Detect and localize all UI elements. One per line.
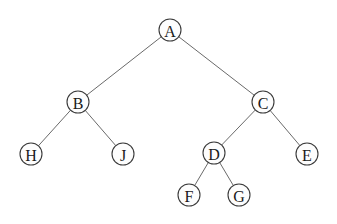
nodes-layer: ABCHJDEFG (20, 19, 318, 206)
node-label: J (120, 147, 126, 164)
node-label: C (258, 95, 269, 112)
edge-a-c (179, 37, 255, 96)
edge-b-h (38, 110, 70, 146)
node-label: E (302, 147, 312, 164)
tree-diagram: ABCHJDEFG (0, 0, 337, 224)
edge-c-e (270, 110, 300, 145)
tree-node-e: E (296, 143, 318, 165)
edge-d-f (195, 162, 209, 185)
node-label: D (208, 146, 220, 163)
edge-d-g (220, 162, 234, 185)
edge-b-j (85, 110, 116, 145)
tree-node-d: D (203, 142, 225, 164)
edge-a-b (87, 37, 162, 95)
tree-node-b: B (67, 91, 89, 113)
tree-node-f: F (178, 184, 200, 206)
node-label: B (73, 95, 84, 112)
tree-node-c: C (252, 91, 274, 113)
node-label: F (185, 188, 194, 205)
edge-c-d (222, 110, 256, 145)
tree-node-g: G (228, 184, 250, 206)
node-label: A (164, 23, 176, 40)
node-label: G (233, 188, 245, 205)
tree-node-a: A (159, 19, 181, 41)
node-label: H (25, 147, 37, 164)
tree-node-j: J (112, 143, 134, 165)
tree-node-h: H (20, 143, 42, 165)
